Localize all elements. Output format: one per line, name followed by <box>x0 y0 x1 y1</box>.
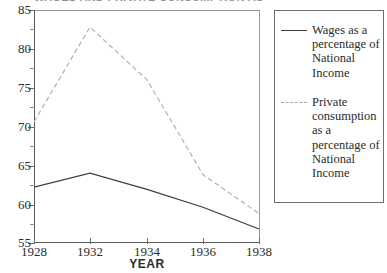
series-line-wages <box>34 173 259 229</box>
y-tick-label-60: 60 <box>1 198 31 211</box>
chart-title: WAGES AND PRIVATE CONSUMPTION AS A PERCE… <box>34 0 264 1</box>
legend-swatch-solid-icon <box>281 23 307 37</box>
series-line-private-consumption <box>34 27 259 213</box>
y-tick-label-65: 65 <box>1 159 31 172</box>
x-axis-title: YEAR <box>34 257 260 271</box>
legend-label-wages: Wages as a percentage of National Income <box>312 23 381 80</box>
chart-figure: WAGES AND PRIVATE CONSUMPTION AS A PERCE… <box>0 0 387 273</box>
y-tick-label-80: 80 <box>1 42 31 55</box>
y-axis-labels: 85 80 75 70 65 60 55 <box>0 0 31 273</box>
y-tick-label-85: 85 <box>1 3 31 16</box>
series-lines <box>34 10 260 243</box>
legend-swatch-dashed-icon <box>281 95 307 109</box>
legend-label-private-consumption: Private consumption as a percentage of N… <box>312 95 381 180</box>
legend: Wages as a percentage of National Income… <box>274 10 384 203</box>
y-tick-label-70: 70 <box>1 120 31 133</box>
legend-entry-wages: Wages as a percentage of National Income <box>281 23 381 80</box>
y-tick-label-75: 75 <box>1 81 31 94</box>
legend-entry-private-consumption: Private consumption as a percentage of N… <box>281 95 381 180</box>
